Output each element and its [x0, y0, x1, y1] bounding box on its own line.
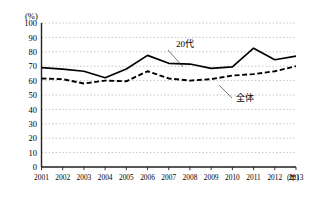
y-tick-label: 30	[29, 119, 38, 129]
x-tick-label: 2002	[55, 173, 70, 182]
x-tick-label: 2006	[140, 173, 155, 182]
series-label-2: 全体	[236, 92, 254, 103]
gridlines-group	[42, 23, 297, 167]
x-tick-label: 2012	[267, 173, 282, 182]
x-tick-label: 2005	[119, 173, 134, 182]
y-tick-label: 50	[29, 90, 38, 100]
x-tick-label: 2001	[34, 173, 49, 182]
line-chart: (%) 0102030405060708090100 2001200220032…	[0, 0, 318, 202]
x-tick-label: 2007	[161, 173, 176, 182]
chart-container: (%) 0102030405060708090100 2001200220032…	[0, 0, 318, 202]
y-tick-label: 20	[29, 133, 38, 143]
y-tick-label: 60	[29, 76, 38, 86]
y-tick-label: 0	[33, 162, 37, 172]
x-axis-unit-label: (年)	[287, 173, 299, 182]
x-tick-label: 2009	[204, 173, 219, 182]
x-tick-label: 2010	[225, 173, 240, 182]
y-tick-label: 90	[29, 33, 38, 43]
series-label-1: 20代	[176, 39, 194, 49]
y-tick-label: 70	[29, 61, 38, 71]
x-tick-label: 2011	[246, 173, 261, 182]
series-labels-group: 20代全体	[168, 39, 254, 103]
x-tick-label: 2004	[98, 173, 113, 182]
y-tick-label: 100	[24, 18, 37, 28]
series-label-leader-1	[168, 50, 183, 67]
y-tick-label: 40	[29, 105, 38, 115]
y-tick-labels-group: 0102030405060708090100	[24, 18, 37, 172]
series-group	[42, 48, 297, 83]
x-tick-label: 2008	[183, 173, 198, 182]
series-label-leader-2	[219, 85, 232, 98]
y-tick-label: 10	[29, 148, 38, 158]
x-tick-label: 2003	[77, 173, 92, 182]
y-tick-label: 80	[29, 47, 38, 57]
x-tick-labels-group: 2001200220032004200520062007200820092010…	[34, 173, 304, 182]
